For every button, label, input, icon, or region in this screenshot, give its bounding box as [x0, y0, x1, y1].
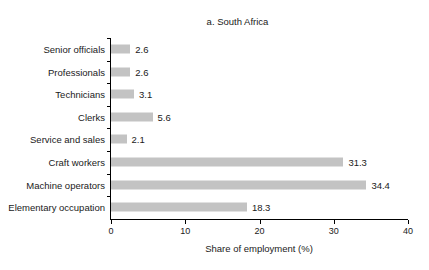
bar-row: Service and sales2.1	[0, 128, 429, 150]
y-axis-tick	[107, 174, 110, 175]
bar-value-label: 3.1	[139, 89, 152, 100]
bar-row: Craft workers31.3	[0, 151, 429, 173]
y-axis-tick	[107, 151, 110, 152]
bar-chart-plot: Senior officials2.6Professionals2.6Techn…	[0, 0, 429, 270]
x-axis-tick	[111, 220, 112, 224]
bar	[111, 45, 130, 54]
bar	[111, 67, 130, 76]
x-axis-tick	[185, 220, 186, 224]
y-axis-tick	[107, 38, 110, 39]
bar-row: Clerks5.6	[0, 106, 429, 128]
bar	[111, 135, 127, 144]
bar-value-label: 18.3	[252, 202, 271, 213]
bar	[111, 158, 343, 167]
x-axis-tick-label: 30	[329, 226, 339, 236]
x-axis-tick-label: 10	[180, 226, 190, 236]
x-axis-tick	[334, 220, 335, 224]
bar-value-label: 2.1	[132, 134, 145, 145]
y-axis-tick	[107, 106, 110, 107]
bar	[111, 112, 153, 121]
category-label: Service and sales	[30, 134, 105, 145]
y-axis-tick	[107, 83, 110, 84]
bar-row: Machine operators34.4	[0, 174, 429, 196]
category-label: Technicians	[55, 89, 105, 100]
bar-value-label: 2.6	[135, 44, 148, 55]
bar-row: Technicians3.1	[0, 83, 429, 105]
category-label: Elementary occupation	[8, 202, 105, 213]
bar-value-label: 31.3	[348, 157, 367, 168]
category-label: Clerks	[78, 111, 105, 122]
bar-row: Elementary occupation18.3	[0, 196, 429, 218]
x-axis-tick-label: 40	[403, 226, 413, 236]
x-axis-tick-label: 0	[108, 226, 113, 236]
bar	[111, 203, 247, 212]
x-axis-tick	[408, 220, 409, 224]
bar	[111, 90, 134, 99]
x-axis-title: Share of employment (%)	[110, 243, 408, 254]
y-axis-tick	[107, 61, 110, 62]
bar-value-label: 5.6	[158, 111, 171, 122]
bar-value-label: 2.6	[135, 66, 148, 77]
category-label: Professionals	[48, 66, 105, 77]
bar	[111, 180, 366, 189]
category-label: Craft workers	[49, 157, 105, 168]
y-axis-tick	[107, 128, 110, 129]
bar-value-label: 34.4	[371, 179, 390, 190]
category-label: Senior officials	[43, 44, 105, 55]
bar-row: Senior officials2.6	[0, 38, 429, 60]
x-axis-tick	[260, 220, 261, 224]
y-axis-tick	[107, 196, 110, 197]
category-label: Machine operators	[26, 179, 105, 190]
x-axis-tick-label: 20	[254, 226, 264, 236]
bar-row: Professionals2.6	[0, 61, 429, 83]
